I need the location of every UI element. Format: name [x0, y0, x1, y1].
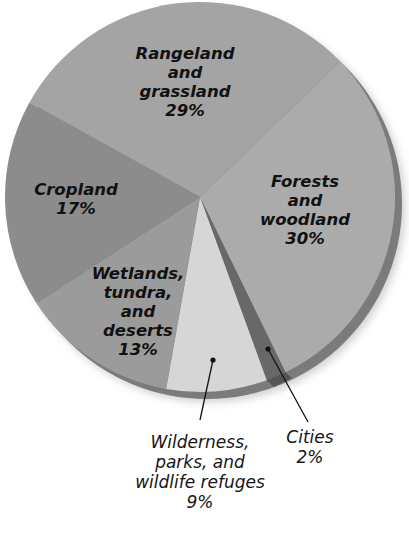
label-wetlands-line3: and [88, 302, 188, 321]
label-rangeland-pct: 29% [130, 101, 240, 120]
label-rangeland: Rangeland and grassland 29% [130, 44, 240, 120]
label-forests-pct: 30% [255, 229, 355, 248]
label-wetlands-line1: Wetlands, [88, 264, 188, 283]
label-cropland-pct: 17% [26, 199, 126, 218]
label-cropland: Cropland 17% [26, 180, 126, 218]
label-wetlands-line2: tundra, [88, 283, 188, 302]
label-rangeland-line1: Rangeland [130, 44, 240, 63]
label-wetlands-pct: 13% [88, 340, 188, 359]
wilderness-leader-dot [210, 357, 215, 362]
label-rangeland-line3: grassland [130, 82, 240, 101]
label-wilderness: Wilderness, parks, and wildlife refuges … [125, 432, 275, 512]
label-cities-line1: Cities [280, 427, 340, 447]
cities-leader-dot [265, 346, 270, 351]
label-wilderness-line3: wildlife refuges [125, 472, 275, 492]
label-cities-pct: 2% [280, 447, 340, 467]
label-forests: Forests and woodland 30% [255, 172, 355, 248]
label-forests-line1: Forests [255, 172, 355, 191]
label-cities: Cities 2% [280, 427, 340, 467]
label-wetlands-line4: deserts [88, 321, 188, 340]
label-wetlands: Wetlands, tundra, and deserts 13% [88, 264, 188, 359]
label-cropland-line1: Cropland [26, 180, 126, 199]
label-wilderness-line2: parks, and [125, 452, 275, 472]
label-forests-line3: woodland [255, 210, 355, 229]
label-forests-line2: and [255, 191, 355, 210]
label-rangeland-line2: and [130, 63, 240, 82]
label-wilderness-pct: 9% [125, 492, 275, 512]
label-wilderness-line1: Wilderness, [125, 432, 275, 452]
